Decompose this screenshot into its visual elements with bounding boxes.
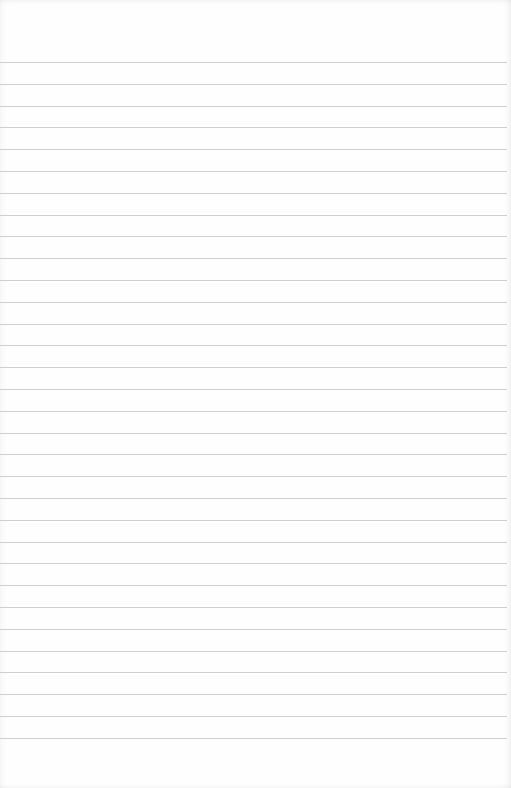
ruled-line bbox=[0, 585, 507, 586]
ruled-line bbox=[0, 672, 507, 673]
ruled-line bbox=[0, 411, 507, 412]
ruled-line bbox=[0, 84, 507, 85]
ruled-line bbox=[0, 149, 507, 150]
ruled-line bbox=[0, 651, 507, 652]
ruled-line bbox=[0, 127, 507, 128]
ruled-line bbox=[0, 258, 507, 259]
ruled-line bbox=[0, 520, 507, 521]
ruled-line bbox=[0, 367, 507, 368]
lined-paper-page bbox=[0, 0, 511, 788]
ruled-line bbox=[0, 542, 507, 543]
ruled-line bbox=[0, 171, 507, 172]
ruled-line bbox=[0, 62, 507, 63]
ruled-line bbox=[0, 454, 507, 455]
ruled-line bbox=[0, 302, 507, 303]
ruled-line bbox=[0, 694, 507, 695]
ruled-line bbox=[0, 476, 507, 477]
ruled-line bbox=[0, 106, 507, 107]
ruled-line bbox=[0, 498, 507, 499]
ruled-line bbox=[0, 236, 507, 237]
ruled-line bbox=[0, 280, 507, 281]
ruled-line bbox=[0, 563, 507, 564]
ruled-line bbox=[0, 345, 507, 346]
ruled-line bbox=[0, 716, 507, 717]
ruled-line bbox=[0, 607, 507, 608]
ruled-line bbox=[0, 193, 507, 194]
ruled-line bbox=[0, 389, 507, 390]
ruled-line bbox=[0, 629, 507, 630]
ruled-line bbox=[0, 215, 507, 216]
ruled-line bbox=[0, 738, 507, 739]
ruled-line bbox=[0, 433, 507, 434]
ruled-line bbox=[0, 324, 507, 325]
